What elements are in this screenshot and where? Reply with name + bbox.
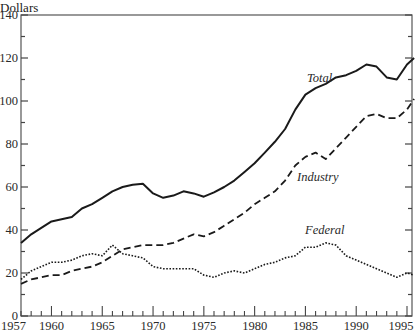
plot-frame <box>21 15 412 316</box>
series-label-total: Total <box>307 71 333 85</box>
x-axis-ticks: 195719601965197019751980198519901995 <box>1 306 414 333</box>
series-lines <box>21 58 414 284</box>
y-tick-label: 140 <box>0 8 18 22</box>
x-tick-label: 1985 <box>293 319 318 333</box>
x-tick-label: 1995 <box>389 319 414 333</box>
x-tick-label: 1975 <box>191 319 216 333</box>
y-tick-label: 100 <box>0 94 18 108</box>
y-tick-label: 120 <box>0 51 18 65</box>
line-chart: Dollars 020406080100120140 1957196019651… <box>0 0 417 335</box>
series-label-industry: Industry <box>296 170 339 184</box>
y-tick-label: 20 <box>6 266 19 280</box>
y-tick-label: 80 <box>6 137 19 151</box>
series-label-federal: Federal <box>304 223 345 237</box>
x-tick-label: 1970 <box>141 319 166 333</box>
x-tick-label: 1980 <box>242 319 267 333</box>
x-tick-label: 1957 <box>1 319 26 333</box>
x-tick-label: 1965 <box>90 319 115 333</box>
series-federal-line <box>21 243 414 280</box>
x-tick-label: 1960 <box>39 319 64 333</box>
x-tick-label: 1990 <box>344 319 369 333</box>
y-tick-label: 40 <box>6 223 19 237</box>
y-tick-label: 60 <box>6 180 19 194</box>
series-total-line <box>21 58 414 243</box>
